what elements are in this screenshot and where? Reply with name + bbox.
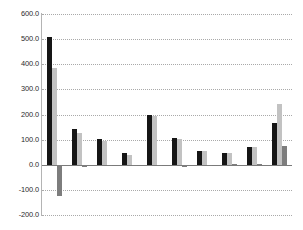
bar-group — [267, 14, 292, 215]
y-axis-tick-label: 300.0 — [0, 85, 39, 93]
bar — [132, 165, 137, 166]
plot-area — [42, 14, 292, 215]
y-axis-tick-label: 100.0 — [0, 136, 39, 144]
y-axis-tick-label: 500.0 — [0, 35, 39, 43]
y-axis-tick-label: -100.0 — [0, 186, 39, 194]
bar — [227, 153, 232, 165]
y-axis-tick-labels: 600.0500.0400.0300.0200.0100.00.0-100.0-… — [0, 0, 39, 230]
bar — [207, 165, 212, 166]
bar-group — [167, 14, 192, 215]
bar-group — [242, 14, 267, 215]
bar — [127, 155, 132, 165]
bar — [257, 164, 262, 165]
bar-group — [92, 14, 117, 215]
bar — [102, 141, 107, 165]
y-axis-tick-label: -200.0 — [0, 211, 39, 219]
bar — [177, 139, 182, 165]
bar-group — [117, 14, 142, 215]
bar-group — [67, 14, 92, 215]
bar-group — [192, 14, 217, 215]
bar — [202, 151, 207, 164]
y-axis-tick-label: 400.0 — [0, 60, 39, 68]
bar — [157, 165, 162, 166]
bar-group — [217, 14, 242, 215]
y-axis-tick-label: 600.0 — [0, 10, 39, 18]
bar — [77, 133, 82, 165]
y-axis-tick-label: 0.0 — [0, 161, 39, 169]
bar — [57, 165, 62, 196]
gridline — [42, 215, 292, 216]
bar-group — [42, 14, 67, 215]
bar-group — [142, 14, 167, 215]
bar — [182, 165, 187, 167]
bar — [152, 116, 157, 165]
bar-chart: 600.0500.0400.0300.0200.0100.00.0-100.0-… — [0, 0, 303, 230]
bar — [107, 165, 112, 167]
bar — [282, 146, 287, 165]
bar — [252, 147, 257, 165]
bar — [52, 68, 57, 165]
bar — [232, 164, 237, 165]
bar — [82, 165, 87, 167]
y-axis-tick-label: 200.0 — [0, 111, 39, 119]
